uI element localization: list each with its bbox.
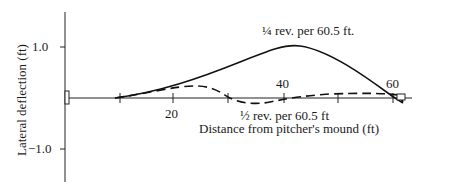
x-tick-label: 40	[276, 76, 289, 92]
x-axis-label: Distance from pitcher's mound (ft)	[199, 121, 379, 137]
y-tick-label: −1.0	[28, 141, 52, 157]
series-half-rev	[115, 86, 403, 103]
y-tick-label: 1.0	[32, 39, 48, 55]
series-label-quarter: ¼ rev. per 60.5 ft.	[262, 23, 354, 39]
x-tick-label: 60	[386, 76, 399, 92]
pitcher-mound-marker	[65, 91, 69, 104]
home-plate-marker	[397, 94, 405, 100]
series-quarter-rev	[115, 46, 403, 103]
chart-canvas	[0, 0, 454, 195]
x-tick-label: 20	[165, 106, 178, 122]
